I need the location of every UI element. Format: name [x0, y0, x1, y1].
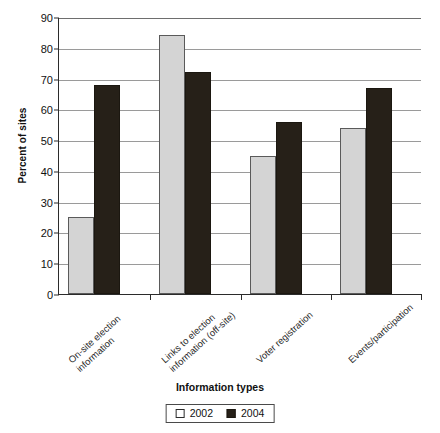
dark-square-icon	[227, 409, 236, 418]
bar-2002-4	[340, 128, 366, 294]
y-axis-tick-label: 50	[41, 135, 53, 147]
x-axis-tick	[150, 294, 151, 300]
gridline	[59, 80, 421, 81]
bar-2002-3	[250, 156, 276, 295]
gridline	[59, 49, 421, 50]
y-axis-tick-label: 0	[47, 289, 53, 301]
bar-chart: Percent of sites 0102030405060708090 On-…	[0, 0, 440, 433]
bar-2002-1	[68, 217, 94, 294]
gridline	[59, 18, 421, 19]
y-axis-tick	[54, 202, 59, 203]
y-axis-tick-label: 70	[41, 74, 53, 86]
y-axis-tick-label: 80	[41, 43, 53, 55]
y-axis-title: Percent of sites	[17, 86, 28, 206]
bar-2004-1	[94, 85, 120, 294]
legend-item-2002: 2002	[176, 407, 213, 419]
y-axis-tick	[54, 110, 59, 111]
y-axis-tick	[54, 18, 59, 19]
bar-2004-2	[185, 72, 211, 294]
plot-area: 0102030405060708090	[58, 18, 421, 295]
plot-inner: 0102030405060708090	[59, 18, 421, 294]
y-axis-tick	[54, 295, 59, 296]
y-axis-tick	[54, 48, 59, 49]
x-axis-tick	[241, 294, 242, 300]
legend-label: 2004	[241, 407, 264, 419]
x-axis-tick	[331, 294, 332, 300]
y-axis-tick	[54, 264, 59, 265]
y-axis-tick-label: 60	[41, 104, 53, 116]
y-axis-tick-label: 40	[41, 166, 53, 178]
bar-2002-2	[159, 35, 185, 294]
y-axis-tick	[54, 141, 59, 142]
y-axis-tick	[54, 233, 59, 234]
bar-2004-4	[366, 88, 392, 294]
bar-2004-3	[276, 122, 302, 294]
x-axis-category-label-4: Events/participation	[346, 302, 415, 366]
y-axis-tick	[54, 171, 59, 172]
y-axis-tick-label: 90	[41, 12, 53, 24]
y-axis-tick-label: 20	[41, 227, 53, 239]
x-axis-category-label-3: Voter registration	[254, 309, 315, 366]
legend-label: 2002	[190, 407, 213, 419]
legend: 20022004	[166, 404, 275, 423]
y-axis-tick	[54, 79, 59, 80]
y-axis-tick-label: 10	[41, 258, 53, 270]
legend-item-2004: 2004	[227, 407, 264, 419]
y-axis-tick-label: 30	[41, 197, 53, 209]
x-axis-category-label-2: Links to election information (off-site)	[159, 301, 237, 375]
x-axis-title: Information types	[0, 381, 440, 393]
light-square-icon	[176, 409, 185, 418]
x-axis-tick	[421, 294, 422, 300]
x-axis-category-label-1: On-site election information	[66, 313, 130, 374]
